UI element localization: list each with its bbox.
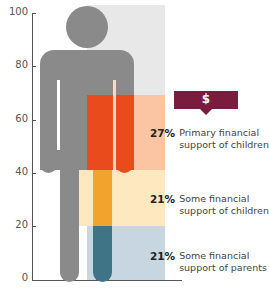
label-pct: 27% xyxy=(150,127,175,139)
person-right-leg-lower-icon xyxy=(93,226,112,282)
label-desc-line2: support of children xyxy=(179,205,269,217)
label-desc-line1: Primary financial xyxy=(179,127,269,139)
arm-gap-right xyxy=(113,80,116,170)
y-tick-20 xyxy=(32,226,36,227)
person-left-arm-icon xyxy=(40,150,57,173)
y-axis-line xyxy=(32,13,33,281)
y-tick-label: 0 xyxy=(4,272,28,283)
label-primary-children: 27% Primary financial support of childre… xyxy=(150,127,269,151)
label-some-children: 21% Some financial support of children xyxy=(150,193,269,217)
label-desc-line2: support of children xyxy=(179,139,269,151)
label-desc: Some financial support of parents xyxy=(179,250,267,274)
arm-gap-left xyxy=(57,80,60,150)
y-tick-60 xyxy=(32,120,36,121)
y-tick-label: 20 xyxy=(4,219,28,230)
label-pct: 21% xyxy=(150,250,175,262)
person-right-arm-icon xyxy=(116,150,133,173)
y-tick-40 xyxy=(32,173,36,174)
y-tick-label: 60 xyxy=(4,113,28,124)
y-tick-label: 80 xyxy=(4,59,28,70)
person-right-leg-upper-icon xyxy=(93,170,112,226)
label-desc-line1: Some financial xyxy=(179,250,267,262)
dollar-icon: $ xyxy=(174,92,238,106)
y-tick-label: 40 xyxy=(4,166,28,177)
label-some-parents: 21% Some financial support of parents xyxy=(150,250,267,274)
person-left-leg-icon xyxy=(60,150,79,282)
dollar-banner: $ xyxy=(174,91,238,115)
label-desc-line2: support of parents xyxy=(179,262,267,274)
y-tick-80 xyxy=(32,66,36,67)
label-desc: Primary financial support of children xyxy=(179,127,269,151)
y-tick-label: 100 xyxy=(4,6,28,17)
person-head-icon xyxy=(66,6,108,48)
label-desc-line1: Some financial xyxy=(179,193,269,205)
label-pct: 21% xyxy=(150,193,175,205)
y-tick-100 xyxy=(32,13,36,14)
label-desc: Some financial support of children xyxy=(179,193,269,217)
